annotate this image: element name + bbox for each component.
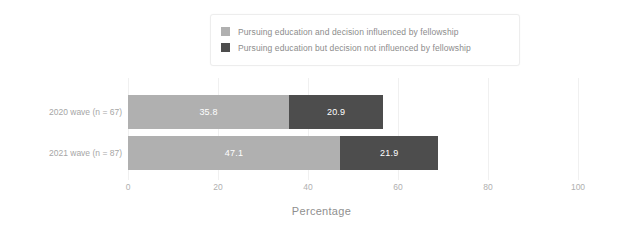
legend-item-not-influenced: Pursuing education but decision not infl… <box>221 40 509 55</box>
bar-row: 35.820.9 <box>128 95 383 129</box>
legend-label-influenced: Pursuing education and decision influenc… <box>238 27 459 37</box>
bar-segment: 21.9 <box>340 136 439 170</box>
gridline <box>578 78 579 180</box>
x-axis-tick-label: 0 <box>126 182 131 192</box>
legend-swatch-icon-influenced <box>221 27 230 36</box>
x-axis-tick-label: 20 <box>213 182 222 192</box>
x-axis-tick-label: 40 <box>303 182 312 192</box>
legend-swatch-icon-not-influenced <box>221 43 230 52</box>
x-axis-tick-label: 100 <box>571 182 585 192</box>
chart-legend: Pursuing education and decision influenc… <box>210 14 520 66</box>
plot-area: 35.820.947.121.9 <box>128 88 578 176</box>
bar-segment: 20.9 <box>289 95 383 129</box>
y-axis-label-2020: 2020 wave (n = 67) <box>4 107 122 117</box>
y-axis-label-2021: 2021 wave (n = 87) <box>4 148 122 158</box>
y-axis: 2020 wave (n = 67) 2021 wave (n = 87) <box>0 88 122 176</box>
x-axis-tick-label: 60 <box>393 182 402 192</box>
legend-label-not-influenced: Pursuing education but decision not infl… <box>238 43 471 53</box>
x-axis-title: Percentage <box>0 205 643 217</box>
legend-item-influenced: Pursuing education and decision influenc… <box>221 24 509 39</box>
x-axis-tick-label: 80 <box>483 182 492 192</box>
bar-segment: 47.1 <box>128 136 340 170</box>
stacked-bar-chart: Pursuing education and decision influenc… <box>0 0 643 235</box>
bar-row: 47.121.9 <box>128 136 438 170</box>
bar-segment: 35.8 <box>128 95 289 129</box>
gridline <box>488 78 489 180</box>
